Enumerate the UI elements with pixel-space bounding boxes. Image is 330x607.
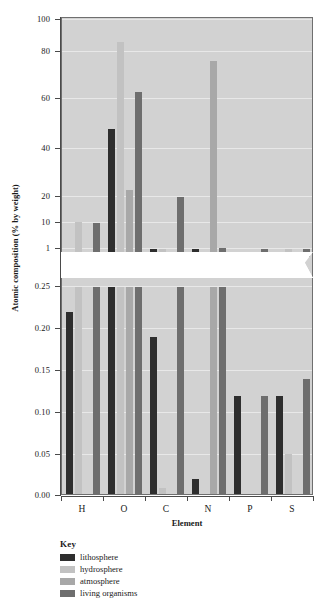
y-tick-label: 0.15 bbox=[16, 366, 50, 375]
y-tick-mark bbox=[55, 248, 60, 249]
legend-swatch-lithosphere bbox=[60, 554, 75, 561]
bar-upper-living-organisms-C bbox=[177, 197, 184, 257]
bar-upper-hydrosphere-O bbox=[117, 42, 124, 257]
bar-living-organisms-S bbox=[303, 379, 310, 495]
x-tick-label-c: C bbox=[145, 504, 187, 514]
y-tick-mark bbox=[55, 98, 60, 99]
bar-atmosphere-O bbox=[126, 287, 133, 495]
x-axis-title: Element bbox=[61, 518, 313, 528]
bar-upper-atmosphere-O bbox=[126, 190, 133, 257]
bar-upper-lithosphere-O bbox=[108, 129, 115, 257]
x-tick-mark bbox=[61, 496, 62, 501]
y-tick-mark bbox=[55, 196, 60, 197]
y-tick-mark bbox=[55, 412, 60, 413]
y-tick-mark bbox=[55, 286, 60, 287]
bar-atmosphere-N bbox=[210, 287, 217, 495]
legend-swatch-living-organisms bbox=[60, 590, 75, 597]
y-tick-mark bbox=[55, 19, 60, 20]
bar-hydrosphere-O bbox=[117, 287, 124, 495]
x-tick-mark bbox=[103, 496, 104, 501]
x-tick-label-n: N bbox=[187, 504, 229, 514]
bar-upper-living-organisms-H bbox=[93, 223, 100, 257]
bar-upper-living-organisms-S bbox=[303, 249, 310, 257]
gridline bbox=[62, 196, 312, 197]
y-tick-mark bbox=[55, 148, 60, 149]
y-tick-mark bbox=[55, 495, 60, 496]
bar-lithosphere-S bbox=[276, 396, 283, 495]
x-tick-mark bbox=[145, 496, 146, 501]
x-tick-mark bbox=[187, 496, 188, 501]
bar-upper-hydrosphere-C bbox=[159, 249, 166, 257]
x-tick-label-p: P bbox=[229, 504, 271, 514]
legend-item: atmosphere bbox=[60, 576, 260, 587]
legend-title: Key bbox=[60, 539, 260, 549]
legend-items: lithospherehydrosphereatmosphereliving o… bbox=[60, 552, 260, 599]
bar-upper-atmosphere-N bbox=[210, 61, 217, 257]
bar-lithosphere-H bbox=[66, 312, 73, 495]
y-axis-title: Atomic composition (% by weight) bbox=[10, 153, 20, 343]
bar-upper-living-organisms-O bbox=[135, 92, 142, 257]
y-axis-line bbox=[60, 17, 61, 496]
bar-lithosphere-N bbox=[192, 479, 199, 495]
bar-upper-hydrosphere-H bbox=[75, 222, 82, 257]
plot-area bbox=[61, 17, 313, 495]
x-tick-label-s: S bbox=[271, 504, 313, 514]
legend-item: lithosphere bbox=[60, 552, 260, 563]
gridline bbox=[62, 148, 312, 149]
gridline bbox=[62, 51, 312, 52]
x-tick-label-o: O bbox=[103, 504, 145, 514]
bar-living-organisms-O bbox=[135, 287, 142, 495]
y-tick-label: 100 bbox=[16, 15, 50, 24]
legend-label: hydrosphere bbox=[80, 565, 122, 574]
y-tick-mark bbox=[55, 454, 60, 455]
bar-upper-lithosphere-N bbox=[192, 249, 199, 257]
legend-label: atmosphere bbox=[80, 577, 120, 586]
bar-living-organisms-N bbox=[219, 287, 226, 495]
bar-hydrosphere-C bbox=[159, 488, 166, 495]
bar-lithosphere-C bbox=[150, 337, 157, 495]
y-tick-label: 60 bbox=[16, 94, 50, 103]
gridline bbox=[62, 98, 312, 99]
gridline bbox=[62, 19, 312, 20]
chart-page: 100806040201010.250.200.150.100.050.00 A… bbox=[0, 0, 330, 607]
legend-item: living organisms bbox=[60, 588, 260, 599]
legend-label: lithosphere bbox=[80, 553, 118, 562]
bar-living-organisms-P bbox=[261, 396, 268, 495]
y-tick-mark bbox=[55, 51, 60, 52]
bar-lithosphere-O bbox=[108, 287, 115, 495]
bar-living-organisms-C bbox=[177, 287, 184, 495]
y-tick-label: 0.10 bbox=[16, 408, 50, 417]
bar-upper-living-organisms-N bbox=[219, 248, 226, 257]
bar-upper-living-organisms-P bbox=[261, 249, 268, 257]
y-tick-mark bbox=[55, 328, 60, 329]
legend-swatch-hydrosphere bbox=[60, 566, 75, 573]
bar-living-organisms-H bbox=[93, 287, 100, 495]
x-tick-mark bbox=[313, 496, 314, 501]
bar-upper-hydrosphere-S bbox=[285, 249, 292, 257]
y-tick-label: 0.00 bbox=[16, 491, 50, 500]
bar-upper-lithosphere-C bbox=[150, 249, 157, 257]
bar-lithosphere-P bbox=[234, 396, 241, 495]
y-tick-mark bbox=[55, 370, 60, 371]
legend-item: hydrosphere bbox=[60, 564, 260, 575]
bar-hydrosphere-H bbox=[75, 287, 82, 495]
bar-hydrosphere-S bbox=[285, 454, 292, 495]
y-tick-label: 80 bbox=[16, 47, 50, 56]
x-tick-label-h: H bbox=[61, 504, 103, 514]
legend: Key lithospherehydrosphereatmospherelivi… bbox=[60, 539, 260, 600]
y-tick-label: 40 bbox=[16, 144, 50, 153]
y-tick-mark bbox=[55, 222, 60, 223]
y-tick-label: 0.05 bbox=[16, 450, 50, 459]
legend-swatch-atmosphere bbox=[60, 578, 75, 585]
y-axis-title-wrap: Atomic composition (% by weight) bbox=[8, 155, 22, 345]
legend-label: living organisms bbox=[80, 589, 137, 598]
x-tick-mark bbox=[271, 496, 272, 501]
x-tick-mark bbox=[229, 496, 230, 501]
